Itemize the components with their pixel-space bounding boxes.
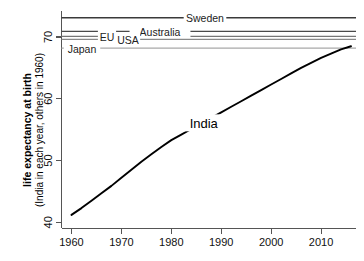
life-expectancy-chart: life expectancy at birth (India in each … (0, 0, 364, 261)
x-tick-label: 1970 (109, 236, 133, 248)
reference-label-eu: EU (100, 31, 115, 43)
y-axis-title-line2: (India in each year, others in 1960) (34, 53, 45, 207)
chart-canvas: life expectancy at birth (India in each … (0, 0, 364, 261)
x-tick-label: 1980 (159, 236, 183, 248)
y-tick-label: 50 (42, 154, 54, 166)
x-axis-ticks: 196019701980199020002010 (59, 229, 333, 249)
reference-label-australia: Australia (140, 26, 181, 38)
series-label-india: India (190, 116, 219, 131)
reference-label-usa: USA (117, 34, 139, 46)
y-tick-label: 70 (42, 31, 54, 43)
x-tick-label: 1960 (59, 236, 83, 248)
y-tick-label: 60 (42, 93, 54, 105)
x-tick-label: 2000 (259, 236, 283, 248)
series-labels-group: India (183, 114, 225, 131)
x-tick-label: 1990 (209, 236, 233, 248)
reference-label-sweden: Sweden (186, 12, 224, 24)
y-axis-title: life expectancy at birth (India in each … (21, 53, 45, 207)
y-tick-label: 40 (42, 216, 54, 228)
y-axis-title-line1: life expectancy at birth (21, 73, 33, 187)
reference-label-japan: Japan (68, 43, 97, 55)
x-tick-label: 2010 (309, 236, 333, 248)
